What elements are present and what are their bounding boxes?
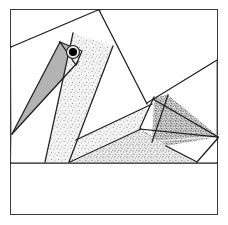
- patch-ground-band: [11, 163, 217, 214]
- quilt-block-diagram: [0, 0, 228, 225]
- quilt-block-canvas: [0, 0, 228, 225]
- eye-pupil-icon: [69, 48, 77, 56]
